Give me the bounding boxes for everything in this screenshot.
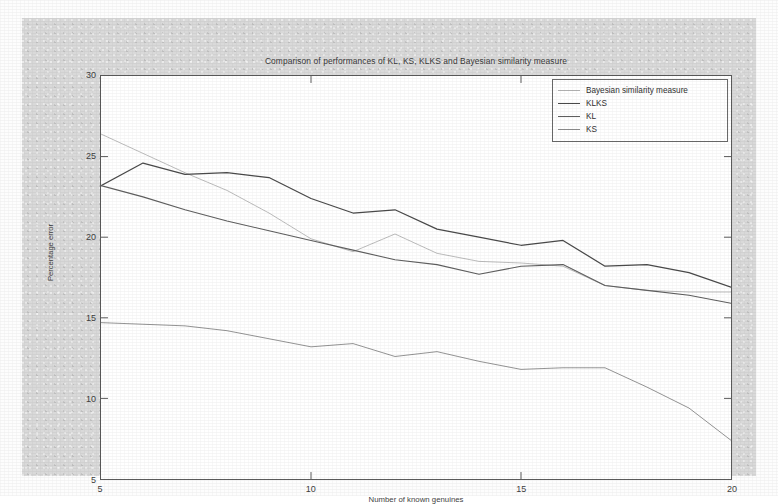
y-tick-25: 25 xyxy=(70,151,96,161)
x-axis-label: Number of known genuines xyxy=(100,495,732,504)
legend-item-klks[interactable]: KLKS xyxy=(558,97,722,110)
x-tick-10: 10 xyxy=(306,484,316,494)
legend-swatch-icon xyxy=(558,129,580,130)
legend-swatch-icon xyxy=(558,90,580,91)
legend-swatch-icon xyxy=(558,116,580,117)
x-tick-20: 20 xyxy=(727,484,737,494)
y-tick-15: 15 xyxy=(70,313,96,323)
legend-item-ks[interactable]: KS xyxy=(558,123,722,136)
chart-title: Comparison of performances of KL, KS, KL… xyxy=(100,56,732,66)
y-tick-20: 20 xyxy=(70,232,96,242)
legend: Bayesian similarity measureKLKSKLKS xyxy=(552,79,728,142)
x-tick-5: 5 xyxy=(97,484,102,494)
legend-item-bayesian-similarity-measure[interactable]: Bayesian similarity measure xyxy=(558,84,722,97)
legend-label: KS xyxy=(586,123,597,136)
legend-label: KL xyxy=(586,110,596,123)
y-axis-tick-labels: 51015202530 xyxy=(66,18,96,476)
series-line-ks xyxy=(101,323,731,441)
series-line-kl xyxy=(101,186,731,304)
legend-label: Bayesian similarity measure xyxy=(586,84,688,97)
legend-label: KLKS xyxy=(586,97,607,110)
legend-item-kl[interactable]: KL xyxy=(558,110,722,123)
y-axis-label: Percentage error xyxy=(46,203,55,303)
legend-swatch-icon xyxy=(558,103,580,104)
y-tick-30: 30 xyxy=(70,70,96,80)
y-tick-10: 10 xyxy=(70,394,96,404)
x-tick-15: 15 xyxy=(516,484,526,494)
figure-canvas: Comparison of performances of KL, KS, KL… xyxy=(22,18,756,476)
series-line-klks xyxy=(101,163,731,287)
